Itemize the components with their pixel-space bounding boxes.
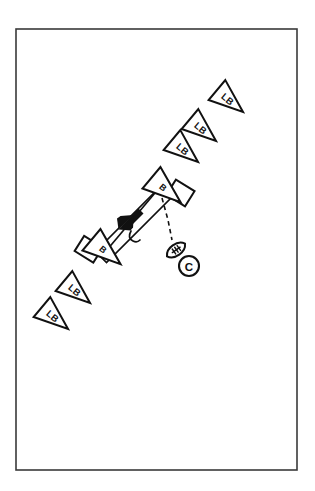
football-play-diagram: LB LB LB — [0, 0, 315, 491]
center-label: C — [185, 261, 193, 273]
diagram-border — [16, 29, 297, 470]
center-marker[interactable]: C — [179, 256, 199, 276]
diagram-canvas: LB LB LB — [0, 0, 315, 491]
